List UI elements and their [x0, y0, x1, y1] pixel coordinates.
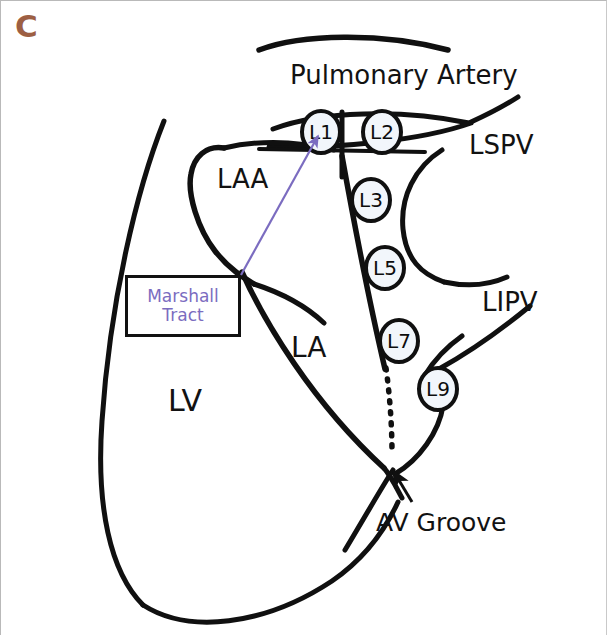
lv-bottom-wall [143, 502, 398, 622]
marshall-tract-arrow [241, 136, 318, 275]
node-l2-label: L2 [370, 120, 394, 144]
node-l9[interactable]: L9 [419, 368, 457, 410]
node-l1[interactable]: L1 [302, 111, 340, 153]
label-lipv: LIPV [482, 289, 538, 315]
l9-lower-wall [395, 406, 443, 474]
marshall-vein-dotted-line [386, 368, 392, 454]
label-lspv: LSPV [469, 132, 533, 158]
lipv-vein-outline [444, 277, 507, 285]
lv-left-wall [101, 121, 164, 605]
node-l5[interactable]: L5 [366, 247, 404, 289]
figure-panel: L1 L2 L3 L5 L7 L9 [0, 0, 607, 635]
label-pulmonary-artery: Pulmonary Artery [290, 62, 518, 88]
node-l1-label: L1 [309, 120, 333, 144]
node-l5-label: L5 [373, 256, 397, 280]
label-la: LA [291, 334, 326, 362]
node-l2[interactable]: L2 [363, 111, 401, 153]
node-l3-label: L3 [359, 188, 383, 212]
label-av-groove: AV Groove [376, 510, 506, 535]
pulmonary-artery-arc [259, 37, 448, 50]
marshall-tract-callout: Marshall Tract [125, 275, 241, 337]
anatomy-diagram: L1 L2 L3 L5 L7 L9 [1, 1, 607, 635]
label-laa: LAA [217, 166, 268, 192]
lspv-vein-outline [403, 150, 444, 282]
marshall-tract-line-2: Tract [162, 306, 203, 325]
label-lv: LV [168, 386, 202, 416]
lspv-stem [471, 97, 518, 122]
node-l3[interactable]: L3 [352, 179, 390, 221]
node-l7[interactable]: L7 [380, 320, 418, 362]
marshall-tract-line-1: Marshall [147, 287, 219, 306]
node-l9-label: L9 [426, 377, 450, 401]
node-l7-label: L7 [387, 329, 411, 353]
panel-letter: C [15, 11, 38, 42]
la-left-wall [242, 272, 384, 468]
